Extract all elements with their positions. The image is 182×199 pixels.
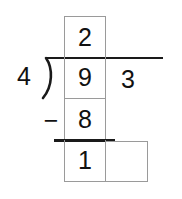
remainder-digit: 1 <box>78 148 92 173</box>
dividend-digit-2: 3 <box>116 67 140 92</box>
quotient-digit: 2 <box>78 25 92 50</box>
long-division-diagram: 2 4 9 3 8 − 1 <box>0 0 182 199</box>
division-bracket <box>38 56 54 100</box>
quotient-digit-box[interactable]: 2 <box>64 16 106 58</box>
dividend-digit-box: 9 <box>64 57 106 99</box>
subtrahend-digit: 8 <box>78 107 92 132</box>
remainder-digit-box[interactable]: 1 <box>64 140 106 182</box>
dividend-digit-1: 9 <box>78 65 92 90</box>
subtrahend-box[interactable]: 8 <box>64 98 106 141</box>
divisor: 4 <box>13 64 35 89</box>
minus-sign: − <box>40 108 62 133</box>
bring-down-digit-box[interactable] <box>105 141 148 182</box>
